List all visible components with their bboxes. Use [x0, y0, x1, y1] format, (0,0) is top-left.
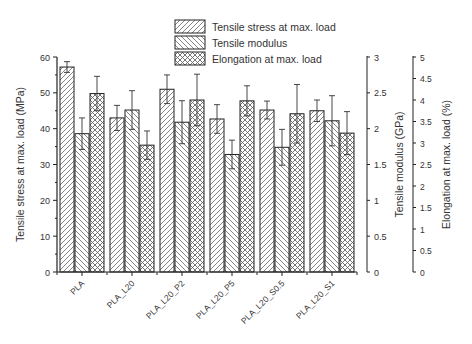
right1-tick-label: 2 [374, 124, 379, 134]
bar [60, 67, 74, 272]
bar [240, 101, 254, 272]
bar [75, 134, 89, 272]
bar [125, 110, 139, 272]
right2-tick-label: 3.5 [420, 117, 432, 127]
right1-tick-label: 2.5 [374, 88, 387, 98]
right1-tick-label: 1 [374, 196, 379, 206]
left-tick-label: 40 [40, 124, 50, 134]
legend: Tensile stress at max. loadTensile modul… [175, 20, 336, 65]
chart-canvas: Tensile stress at max. loadTensile modul… [0, 0, 472, 344]
bar-chart: Tensile stress at max. loadTensile modul… [0, 0, 472, 344]
right2-tick-label: 1.5 [420, 203, 432, 213]
x-tick-label: PLA [68, 278, 87, 297]
right-axis-2-label: Elongation at max. load (%) [440, 100, 452, 229]
bar [210, 119, 224, 272]
legend-swatch [175, 36, 205, 49]
bar [110, 118, 124, 272]
legend-label: Elongation at max. load [212, 53, 322, 65]
right1-tick-label: 0.5 [374, 232, 387, 242]
right2-tick-label: 0 [420, 268, 425, 278]
bar [225, 154, 239, 272]
right2-tick-label: 2 [420, 182, 425, 192]
x-tick-label: PLA_L20_P2 [144, 278, 187, 321]
right2-tick-label: 2.5 [420, 160, 432, 170]
right2-tick-label: 4.5 [420, 74, 432, 84]
left-axis-label: Tensile stress at max. load (MPa) [14, 87, 26, 242]
bar [140, 145, 154, 272]
legend-label: Tensile modulus [212, 37, 287, 49]
x-tick-label: PLA_L20 [105, 278, 137, 310]
bar [175, 122, 189, 272]
left-tick-label: 0 [45, 268, 50, 278]
right2-tick-label: 4 [420, 96, 425, 106]
left-tick-label: 10 [40, 232, 50, 242]
bar [90, 94, 104, 272]
bar [275, 147, 289, 272]
x-tick-label: PLA_L20_S0.5 [239, 278, 287, 326]
x-tick-label: PLA_L20_P5 [194, 278, 237, 321]
legend-swatch [175, 52, 205, 65]
bar [260, 110, 274, 272]
right2-tick-label: 3 [420, 139, 425, 149]
left-tick-label: 60 [40, 53, 50, 63]
right2-tick-label: 0.5 [420, 246, 432, 256]
right1-tick-label: 1.5 [374, 160, 387, 170]
left-tick-label: 30 [40, 160, 50, 170]
legend-swatch [175, 20, 205, 33]
bar [310, 111, 324, 272]
left-tick-label: 50 [40, 88, 50, 98]
left-tick-label: 20 [40, 196, 50, 206]
right2-tick-label: 1 [420, 225, 425, 235]
right2-tick-label: 5 [420, 53, 425, 63]
right1-tick-label: 3 [374, 53, 379, 63]
right1-tick-label: 0 [374, 268, 379, 278]
bars [60, 62, 354, 272]
legend-label: Tensile stress at max. load [212, 21, 336, 33]
x-tick-label: PLA_L20_S1 [294, 278, 337, 321]
right-axis-1-label: Tensile modulus (GPa) [393, 111, 405, 217]
bar [160, 89, 174, 272]
